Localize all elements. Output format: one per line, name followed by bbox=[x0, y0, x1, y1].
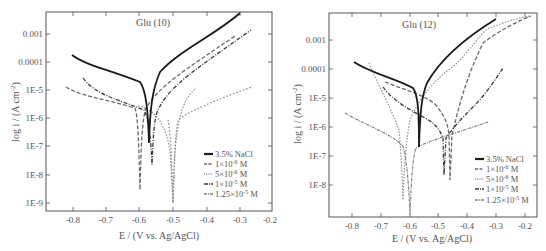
x-tick-label: -0.3 bbox=[489, 221, 504, 231]
series-nacl bbox=[72, 13, 240, 143]
legend-item: 1×10-5 M bbox=[486, 184, 519, 194]
legend-item: 1.25×10-5 M bbox=[486, 195, 529, 205]
y-tick-label: 1E-5 bbox=[309, 93, 327, 103]
left-chart: 0.001 0.0001 1E-5 1E-6 1E-7 1E-8 1E-9 -0… bbox=[9, 12, 277, 242]
y-tick-label: 0.0001 bbox=[18, 57, 43, 67]
x-tick-label: -0.3 bbox=[233, 215, 248, 225]
x-axis-label: E / (V vs. Ag/AgCl) bbox=[119, 230, 199, 242]
series-1.25e-5 bbox=[345, 113, 488, 214]
y-tick-label: 1E-8 bbox=[309, 180, 327, 190]
x-tick-label: -0.8 bbox=[345, 221, 360, 231]
y-tick-label: 1E-8 bbox=[26, 170, 44, 180]
x-tick-label: -0.2 bbox=[263, 215, 277, 225]
x-tick-label: -0.6 bbox=[132, 215, 147, 225]
legend-item: 1.25×10-5 M bbox=[215, 189, 258, 199]
right-x-tick-labels: -0.8 -0.7 -0.6 -0.5 -0.4 -0.3 -0.2 bbox=[345, 221, 532, 231]
x-tick-label: -0.7 bbox=[374, 221, 389, 231]
figure: 0.001 0.0001 1E-5 1E-6 1E-7 1E-8 1E-9 -0… bbox=[0, 0, 546, 251]
series-1e-5 bbox=[83, 30, 251, 165]
y-tick-label: 0.001 bbox=[306, 35, 326, 45]
y-tick-label: 1E-5 bbox=[26, 85, 44, 95]
y-axis-label: log i / (A cm-2) bbox=[291, 84, 304, 144]
legend-item: 3.5% NaCl bbox=[486, 154, 524, 164]
left-x-tick-labels: -0.8 -0.7 -0.6 -0.5 -0.4 -0.3 -0.2 bbox=[66, 215, 277, 225]
legend-item: 5×10-6 M bbox=[215, 169, 248, 179]
y-tick-label: 1E-7 bbox=[309, 151, 327, 161]
x-tick-label: -0.6 bbox=[403, 221, 418, 231]
legend-item: 1×10-6 M bbox=[215, 159, 248, 169]
series-nacl bbox=[354, 19, 496, 147]
left-legend: 3.5% NaCl 1×10-6 M 5×10-6 M 1×10-5 M 1.2… bbox=[204, 149, 258, 199]
legend-item: 1×10-5 M bbox=[215, 179, 248, 189]
y-tick-label: 1E-6 bbox=[26, 113, 44, 123]
right-y-tick-labels: 0.001 0.0001 1E-5 1E-6 1E-7 1E-8 bbox=[301, 35, 326, 190]
chart-title: Glu (10) bbox=[136, 17, 170, 29]
left-y-tick-labels: 0.001 0.0001 1E-5 1E-6 1E-7 1E-8 1E-9 bbox=[18, 29, 43, 208]
x-tick-label: -0.2 bbox=[518, 221, 532, 231]
y-axis-label: log i / (A cm-2) bbox=[9, 82, 22, 142]
legend-item: 1×10-6 M bbox=[486, 164, 519, 174]
y-tick-label: 1E-7 bbox=[26, 141, 44, 151]
x-tick-label: -0.8 bbox=[66, 215, 81, 225]
y-tick-label: 0.001 bbox=[23, 29, 43, 39]
x-tick-label: -0.4 bbox=[200, 215, 215, 225]
y-tick-label: 1E-6 bbox=[309, 122, 327, 132]
legend-item: 3.5% NaCl bbox=[215, 149, 253, 159]
right-chart: 0.001 0.0001 1E-5 1E-6 1E-7 1E-8 -0.8 -0… bbox=[291, 13, 537, 245]
chart-title: Glu (12) bbox=[402, 19, 436, 31]
y-tick-label: 0.0001 bbox=[301, 64, 326, 74]
y-tick-label: 1E-9 bbox=[26, 198, 44, 208]
legend-item: 5×10-6 M bbox=[486, 174, 519, 184]
x-tick-label: -0.4 bbox=[460, 221, 475, 231]
x-axis-label: E / (V vs. Ag/AgCl) bbox=[392, 233, 472, 245]
x-tick-label: -0.7 bbox=[99, 215, 114, 225]
right-legend: 3.5% NaCl 1×10-6 M 5×10-6 M 1×10-5 M 1.2… bbox=[475, 154, 529, 205]
x-tick-label: -0.5 bbox=[431, 221, 446, 231]
x-tick-label: -0.5 bbox=[166, 215, 181, 225]
